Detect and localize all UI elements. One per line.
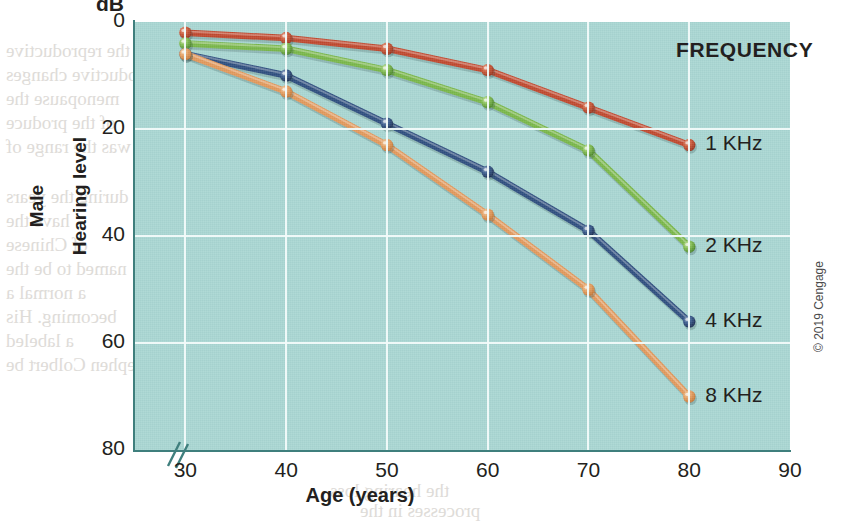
x-tick-label: 90 — [760, 458, 820, 482]
y-tick-label: 0 — [85, 8, 125, 32]
hearing-level-line-chart: dB Male Hearing level Age (years) — [0, 0, 848, 521]
x-axis-tick-labels: 30405060708090 — [0, 458, 848, 488]
x-tick-label: 30 — [155, 458, 215, 482]
y-tick-label: 20 — [85, 115, 125, 139]
y-axis-title-male: Male — [26, 161, 48, 251]
y-tick-label: 40 — [85, 222, 125, 246]
y-axis-tick-labels: 020406080 — [75, 0, 125, 521]
x-tick-label: 60 — [458, 458, 518, 482]
y-axis-line — [133, 20, 135, 452]
plot-area — [135, 22, 790, 450]
x-tick-label: 40 — [256, 458, 316, 482]
legend-title: FREQUENCY — [676, 38, 813, 62]
x-tick-label: 80 — [659, 458, 719, 482]
legend-label-8-khz[interactable]: 8 KHz — [705, 383, 762, 407]
legend-label-4-khz[interactable]: 4 KHz — [705, 308, 762, 332]
y-tick-label: 80 — [85, 436, 125, 460]
y-tick-label: 60 — [85, 329, 125, 353]
legend-label-1-khz[interactable]: 1 KHz — [705, 131, 762, 155]
horizontal-gridline — [135, 235, 790, 237]
x-tick-label: 70 — [558, 458, 618, 482]
horizontal-gridline — [135, 128, 790, 130]
legend-label-2-khz[interactable]: 2 KHz — [705, 233, 762, 257]
x-tick-label: 50 — [357, 458, 417, 482]
x-axis-line — [133, 450, 791, 452]
copyright-notice: © 2019 Cengage — [812, 261, 826, 352]
horizontal-gridline — [135, 342, 790, 344]
